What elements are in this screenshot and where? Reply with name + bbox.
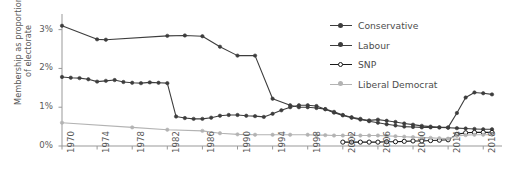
x-tick-label: 2014	[452, 131, 462, 153]
legend-item-conservative[interactable]: Conservative	[330, 16, 437, 36]
legend-marker-icon	[330, 79, 352, 89]
x-tick-label: 2006	[382, 131, 392, 153]
chart-legend: ConservativeLabourSNPLiberal Democrat	[330, 16, 437, 94]
y-tick-label: 0%	[27, 140, 53, 150]
legend-marker-icon	[330, 21, 352, 31]
x-tick-label: 2018	[487, 131, 497, 153]
legend-marker-icon	[330, 40, 352, 50]
legend-label: Liberal Democrat	[358, 79, 437, 90]
x-tick-label: 1990	[242, 131, 252, 153]
x-tick-label: 1994	[277, 131, 287, 153]
x-tick-label: 2010	[417, 131, 427, 153]
x-tick-label: 1978	[136, 131, 146, 153]
legend-label: Labour	[358, 40, 390, 51]
x-tick-label: 1970	[66, 131, 76, 153]
legend-marker-icon	[330, 60, 352, 70]
legend-item-labour[interactable]: Labour	[330, 36, 437, 56]
y-tick-label: 1%	[27, 101, 53, 111]
y-tick-label: 3%	[27, 24, 53, 34]
x-tick-label: 1982	[171, 131, 181, 153]
legend-label: Conservative	[358, 20, 418, 31]
x-tick-label: 1974	[101, 131, 111, 153]
legend-item-liberal-democrat[interactable]: Liberal Democrat	[330, 75, 437, 95]
legend-item-snp[interactable]: SNP	[330, 55, 437, 75]
x-tick-label: 1986	[206, 131, 216, 153]
legend-label: SNP	[358, 59, 376, 70]
membership-line-chart: Membership as proportion of electorate 0…	[0, 0, 506, 185]
y-tick-label: 2%	[27, 62, 53, 72]
x-tick-label: 1998	[312, 131, 322, 153]
x-tick-label: 2002	[347, 131, 357, 153]
